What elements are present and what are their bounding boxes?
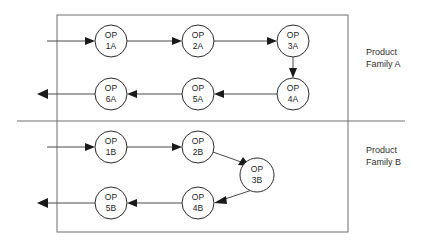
node-op-3a-label-line1: OP — [287, 30, 300, 40]
arrowhead-output-b-icon — [37, 198, 48, 208]
node-op-4a[interactable]: OP 4A — [277, 78, 309, 110]
node-op-2a[interactable]: OP 2A — [182, 25, 214, 57]
node-op-4a-label-line2: 4A — [288, 94, 299, 104]
arrowhead-2a-3a-icon — [267, 37, 277, 45]
node-op-4b[interactable]: OP 4B — [182, 187, 214, 219]
node-op-3a-label-line2: 3A — [288, 41, 299, 51]
node-op-2b-label-line2: 2B — [193, 147, 204, 157]
node-op-4b-label-line2: 4B — [193, 203, 204, 213]
node-op-1b-label-line2: 1B — [106, 147, 117, 157]
node-op-5a-label-line2: 5A — [193, 94, 204, 104]
family-a-label-line1: Product — [366, 47, 398, 57]
edge-op-2b-to-op-3b — [213, 152, 244, 163]
node-op-1a[interactable]: OP 1A — [95, 25, 127, 57]
arrowhead-4a-5a-icon — [214, 90, 224, 98]
node-op-2a-label-line2: 2A — [193, 41, 204, 51]
node-op-2a-label-line1: OP — [192, 30, 205, 40]
arrowhead-5a-6a-icon — [127, 90, 137, 98]
node-op-3a[interactable]: OP 3A — [277, 25, 309, 57]
node-op-6a-label-line1: OP — [105, 83, 118, 93]
diagram-canvas: OP 1A OP 2A OP 3A OP 4A OP 5A — [0, 0, 427, 247]
family-b-flows — [37, 143, 252, 208]
node-op-5b[interactable]: OP 5B — [95, 187, 127, 219]
family-b-label-line2: Family B — [366, 157, 401, 167]
node-op-5a[interactable]: OP 5A — [182, 78, 214, 110]
node-op-1b-label-line1: OP — [105, 136, 118, 146]
node-op-6a[interactable]: OP 6A — [95, 78, 127, 110]
node-op-6a-label-line2: 6A — [106, 94, 117, 104]
node-op-1a-label-line2: 1A — [106, 41, 117, 51]
process-flow-diagram: OP 1A OP 2A OP 3A OP 4A OP 5A — [0, 0, 427, 247]
node-op-5b-label-line1: OP — [105, 192, 118, 202]
family-a-label: Product Family A — [366, 47, 401, 69]
arrowhead-4b-5b-icon — [127, 199, 137, 207]
edge-op-3b-to-op-4b — [222, 190, 252, 200]
arrowhead-output-a-icon — [37, 89, 48, 99]
operation-nodes: OP 1A OP 2A OP 3A OP 4A OP 5A — [95, 25, 309, 219]
family-b-label: Product Family B — [366, 145, 401, 167]
arrowhead-3b-4b-icon — [214, 196, 227, 204]
family-a-label-line2: Family A — [366, 59, 401, 69]
node-op-1b[interactable]: OP 1B — [95, 131, 127, 163]
arrowhead-3a-4a-icon — [289, 68, 297, 78]
node-op-3b[interactable]: OP 3B — [240, 158, 274, 192]
arrowhead-1a-2a-icon — [172, 37, 182, 45]
arrowhead-1b-2b-icon — [172, 143, 182, 151]
arrowhead-input-a-icon — [85, 37, 95, 45]
node-op-3b-label-line1: OP — [251, 164, 264, 174]
family-a-flows — [37, 37, 297, 99]
node-op-4a-label-line1: OP — [287, 83, 300, 93]
arrowhead-input-b-icon — [85, 143, 95, 151]
node-op-5b-label-line2: 5B — [106, 203, 117, 213]
node-op-2b[interactable]: OP 2B — [182, 131, 214, 163]
family-b-label-line1: Product — [366, 145, 398, 155]
node-op-4b-label-line1: OP — [192, 192, 205, 202]
node-op-5a-label-line1: OP — [192, 83, 205, 93]
node-op-1a-label-line1: OP — [105, 30, 118, 40]
node-op-3b-label-line2: 3B — [252, 175, 263, 185]
node-op-2b-label-line1: OP — [192, 136, 205, 146]
